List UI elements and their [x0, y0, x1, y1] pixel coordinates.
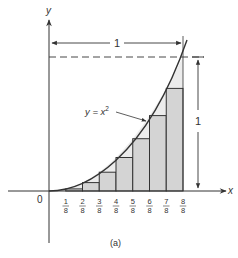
svg-text:8: 8 [147, 206, 151, 215]
tick-label-4: 48 [113, 197, 120, 215]
rect-7 [166, 88, 183, 191]
riemann-sum-diagram: y x 0 1 1 y = x2 18 28 38 48 58 68 78 88… [0, 0, 238, 258]
width-dimension-label: 1 [114, 37, 120, 49]
height-dimension-label: 1 [195, 115, 201, 127]
tick-label-3: 38 [96, 197, 103, 215]
origin-label: 0 [37, 194, 43, 205]
tick-label-2: 28 [79, 197, 86, 215]
svg-text:2: 2 [80, 197, 84, 206]
svg-text:7: 7 [164, 197, 168, 206]
svg-text:8: 8 [80, 206, 84, 215]
svg-text:6: 6 [147, 197, 151, 206]
x-axis-label: x [227, 185, 234, 196]
svg-text:4: 4 [114, 197, 118, 206]
svg-text:8: 8 [97, 206, 101, 215]
svg-text:8: 8 [114, 206, 118, 215]
rect-5 [133, 139, 150, 191]
tick-label-1: 18 [63, 197, 70, 215]
rect-2 [83, 183, 100, 191]
svg-text:5: 5 [131, 197, 135, 206]
svg-text:1: 1 [64, 197, 68, 206]
svg-text:8: 8 [131, 206, 135, 215]
svg-text:3: 3 [97, 197, 101, 206]
y-axis-label: y [45, 5, 52, 16]
tick-label-7: 78 [163, 197, 170, 215]
tick-label-6: 68 [146, 197, 153, 215]
curve-label-pointer [116, 112, 146, 121]
svg-text:8: 8 [181, 197, 185, 206]
tick-label-8: 88 [180, 197, 187, 215]
rect-3 [99, 172, 116, 191]
svg-text:8: 8 [181, 206, 185, 215]
rect-6 [150, 116, 167, 191]
rect-4 [116, 158, 133, 192]
svg-text:8: 8 [164, 206, 168, 215]
tick-label-5: 58 [130, 197, 137, 215]
tick-labels: 18 28 38 48 58 68 78 88 [63, 197, 187, 215]
svg-text:8: 8 [64, 206, 68, 215]
figure-caption: (a) [110, 238, 121, 248]
curve-label: y = x2 [84, 105, 109, 117]
